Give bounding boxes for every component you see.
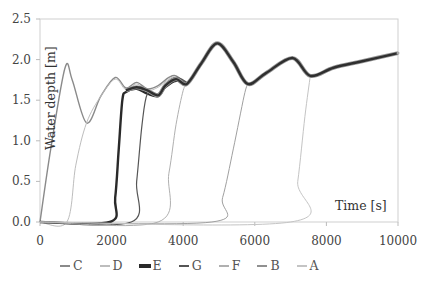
legend-label: A (310, 258, 319, 273)
x-tick-label: 0 (36, 234, 44, 248)
plot-frame (40, 19, 398, 222)
legend-item-C[interactable]: C (60, 258, 83, 273)
series-D (40, 77, 187, 226)
legend-line-icon (100, 265, 110, 267)
legend-line-icon (140, 265, 150, 267)
y-tick-label: 2.5 (12, 12, 31, 26)
x-tick-label: 10000 (379, 234, 417, 248)
legend-label: B (270, 258, 279, 273)
x-tick-label: 6000 (240, 234, 271, 248)
x-axis-label: Time [s] (335, 198, 387, 213)
y-tick-label: 0.5 (12, 174, 31, 188)
x-tick-label: 4000 (168, 234, 199, 248)
y-axis-label: Water depth [m] (43, 46, 58, 150)
series-G (40, 77, 187, 225)
legend-label: F (232, 258, 241, 273)
x-tick-label: 8000 (311, 234, 342, 248)
legend-line-icon (297, 265, 307, 267)
legend: CDEGFBA (60, 258, 336, 273)
merged-series-halo (126, 43, 398, 95)
legend-item-F[interactable]: F (219, 258, 241, 273)
legend-label: G (192, 258, 202, 273)
series-endpoint (397, 52, 400, 55)
series-A (40, 76, 311, 225)
legend-label: D (113, 258, 123, 273)
legend-line-icon (60, 265, 70, 267)
legend-line-icon (257, 265, 267, 267)
legend-label: E (153, 258, 162, 273)
legend-label: C (73, 258, 83, 273)
legend-line-icon (219, 265, 229, 267)
legend-item-D[interactable]: D (100, 258, 123, 273)
legend-item-A[interactable]: A (297, 258, 319, 273)
line-chart: 0.00.51.01.52.02.50200040006000800010000… (0, 0, 426, 290)
legend-item-B[interactable]: B (257, 258, 279, 273)
legend-line-icon (179, 265, 189, 267)
merged-series (126, 43, 398, 95)
y-tick-label: 1.5 (12, 93, 31, 107)
legend-item-E[interactable]: E (140, 258, 162, 273)
x-tick-label: 2000 (96, 234, 127, 248)
series-F (40, 86, 187, 226)
y-tick-label: 1.0 (12, 134, 31, 148)
y-tick-label: 2.0 (12, 53, 31, 67)
legend-item-G[interactable]: G (179, 258, 202, 273)
y-tick-label: 0.0 (12, 215, 31, 229)
series-E (40, 81, 187, 224)
